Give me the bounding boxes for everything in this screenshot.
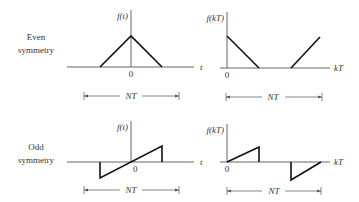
even-continuous-plot: f(t) t 0 NT bbox=[67, 10, 203, 101]
y-axis-label: f(t) bbox=[117, 122, 128, 132]
row-label-even-line2: symmetry bbox=[18, 45, 54, 55]
row-label-odd-line2: symmetry bbox=[18, 155, 54, 165]
y-axis-label: f(kT) bbox=[207, 125, 225, 135]
origin-label: 0 bbox=[133, 164, 138, 174]
even-discrete-plot: f(kT) kT 0 NT bbox=[207, 12, 344, 102]
row-label-even-line1: Even bbox=[27, 32, 46, 42]
arrowhead-right-icon bbox=[318, 96, 322, 99]
arrowhead-left-icon bbox=[227, 190, 231, 193]
nt-span-dimension: NT bbox=[84, 91, 179, 101]
x-axis-label: kT bbox=[334, 63, 344, 73]
origin-label: 0 bbox=[129, 69, 134, 79]
y-axis-label: f(kT) bbox=[207, 13, 225, 23]
span-label: NT bbox=[267, 186, 280, 196]
origin-label: 0 bbox=[225, 70, 230, 80]
symmetry-diagram: Even symmetry f(t) t 0 NT bbox=[0, 0, 359, 202]
row-odd: Odd symmetry f(t) t 0 NT bbox=[18, 121, 344, 196]
arrowhead-left-icon bbox=[84, 189, 88, 192]
arrowhead-right-icon bbox=[175, 95, 179, 98]
negative-ramp-signal bbox=[291, 162, 321, 180]
span-label: NT bbox=[266, 92, 279, 102]
arrowhead-right-icon bbox=[175, 189, 179, 192]
nt-span-dimension: NT bbox=[226, 92, 322, 102]
arrowhead-left-icon bbox=[226, 96, 230, 99]
odd-continuous-plot: f(t) t 0 NT bbox=[67, 121, 203, 195]
origin-label: 0 bbox=[225, 164, 230, 174]
arrowhead-right-icon bbox=[317, 190, 321, 193]
row-label-odd-line1: Odd bbox=[28, 142, 44, 152]
positive-ramp-signal bbox=[227, 147, 259, 162]
y-axis-label: f(t) bbox=[117, 11, 128, 21]
x-axis-label: t bbox=[200, 62, 203, 72]
span-label: NT bbox=[124, 91, 137, 101]
x-axis-label: t bbox=[200, 157, 203, 167]
ascending-ramp-signal bbox=[291, 37, 320, 68]
arrowhead-left-icon bbox=[84, 95, 88, 98]
x-axis-label: kT bbox=[334, 157, 344, 167]
descending-ramp-signal bbox=[227, 36, 259, 68]
odd-discrete-plot: f(kT) kT 0 NT bbox=[207, 124, 344, 196]
span-label: NT bbox=[124, 185, 137, 195]
nt-span-dimension: NT bbox=[227, 186, 321, 196]
nt-span-dimension: NT bbox=[84, 185, 179, 195]
row-even: Even symmetry f(t) t 0 NT bbox=[18, 10, 344, 102]
